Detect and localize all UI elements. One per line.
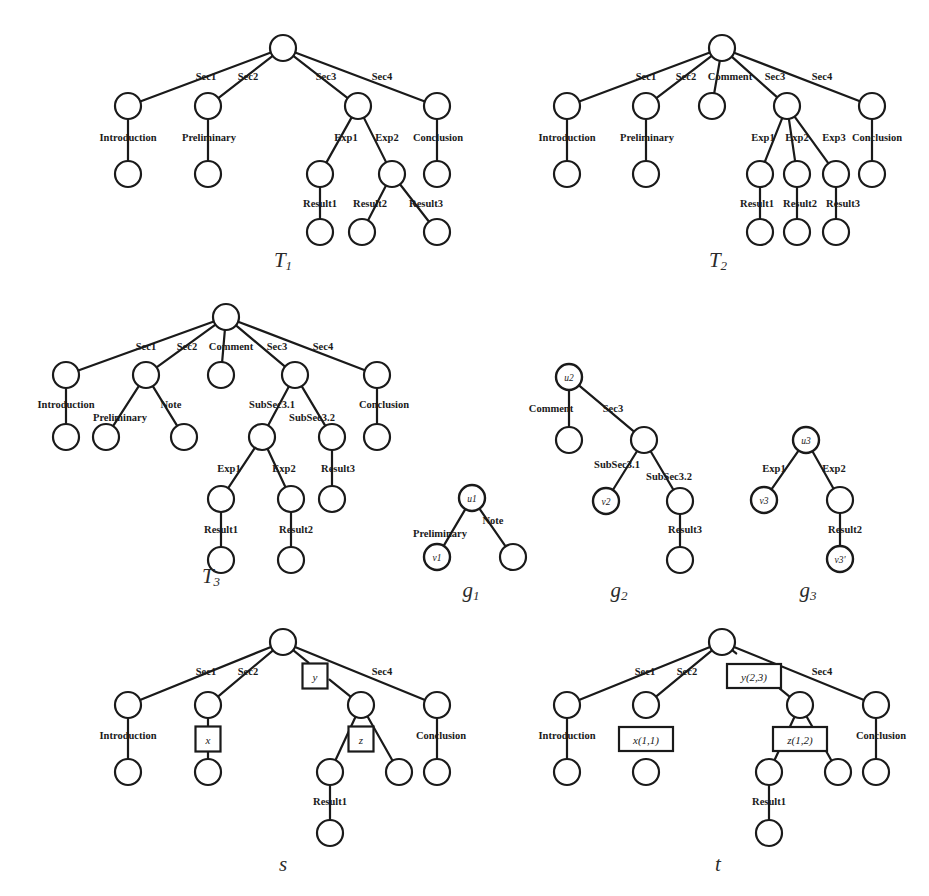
box-x-label: x(1,1) [632,734,659,747]
tree-node [424,219,450,245]
tree-node [631,427,657,453]
tree-node [278,486,304,512]
edge-label: Sec3 [316,71,336,82]
panel-caption-T2: T2 [709,248,728,273]
tree-node [787,692,813,718]
box-x-label: x [205,734,211,746]
panel-T2: Sec1Sec2CommentSec3Sec4IntroductionPreli… [539,35,903,273]
tree-node [270,35,296,61]
tree-node [213,304,239,330]
edge-label: Result2 [828,524,862,535]
tree-node [307,219,333,245]
panel-s: Sec1Sec2Sec4IntroductionConclusionResult… [100,629,467,876]
tree-node [633,93,659,119]
tree-node [115,161,141,187]
tree-node [633,759,659,785]
tree-node [319,424,345,450]
edge-label: Exp2 [272,463,295,474]
edge-label: SubSec3.2 [646,471,692,482]
tree-node [195,759,221,785]
node-label: v2 [602,497,611,507]
edge-label: Sec3 [603,403,623,414]
panel-g2: CommentSec3SubSec3.1SubSec3.2Result3u2v2… [529,364,702,603]
edge-label: Sec1 [136,341,156,352]
edge-label: Sec2 [238,71,258,82]
edge-label: Exp2 [822,463,845,474]
edge-label: Sec3 [267,341,287,352]
edge-label: Result1 [752,796,786,807]
tree-node [317,759,343,785]
edge-label: SubSec3.1 [249,399,295,410]
tree-node [208,486,234,512]
edge-label: Sec4 [313,341,334,352]
tree-node [424,93,450,119]
tree-node [115,692,141,718]
edge-label: Introduction [539,730,596,741]
panel-g1: PreliminaryNoteu1v1g1 [413,485,526,603]
tree-figure: Sec1Sec2Sec3Sec4IntroductionPreliminaryE… [0,0,929,896]
tree-node [823,161,849,187]
tree-node [827,487,853,513]
panel-g3: Exp1Exp2Result2u3v3v3'g3 [751,427,862,603]
tree-node [195,692,221,718]
edge-label: Sec2 [238,666,258,677]
edge-label: Sec4 [812,71,833,82]
tree-node [345,93,371,119]
edge-label: SubSec3.1 [594,459,640,470]
tree-edge [479,509,505,547]
tree-node [386,759,412,785]
box-z-label: z [358,734,364,746]
tree-node [53,362,79,388]
tree-node [424,759,450,785]
tree-node [270,629,296,655]
tree-node [756,820,782,846]
tree-node [747,219,773,245]
tree-node [825,759,851,785]
edge-label: Comment [529,403,574,414]
edge-label: Introduction [539,132,596,143]
panel-caption-g3: g3 [800,578,818,603]
tree-node [774,93,800,119]
tree-node [424,161,450,187]
panel-caption-s: s [279,852,287,876]
tree-edge [613,451,637,490]
edge-label: Introduction [100,132,157,143]
edge-label: Note [161,399,182,410]
tree-node [859,161,885,187]
edge-label: Sec1 [635,666,655,677]
edge-label: Sec4 [372,666,393,677]
panel-caption-g1: g1 [463,578,480,603]
panel-T3: Sec1Sec2CommentSec3Sec4IntroductionPreli… [38,304,410,589]
edge-label: Preliminary [182,132,237,143]
edge-label: Comment [209,341,254,352]
edge-label: Result2 [279,524,313,535]
edge-label: SubSec3.2 [289,412,335,423]
tree-node [348,692,374,718]
tree-node [317,820,343,846]
tree-edge [329,680,350,697]
edge-label: Result1 [740,198,774,209]
edge-label: Sec4 [372,71,393,82]
tree-node [667,488,693,514]
edge-label: Result1 [204,524,238,535]
edge-label: Introduction [100,730,157,741]
tree-node [556,427,582,453]
tree-node [756,759,782,785]
edge-label: Preliminary [413,528,468,539]
edge-label: Exp2 [375,132,398,143]
node-label: u3 [801,436,811,446]
tree-node [282,362,308,388]
edge-label: Sec4 [812,666,833,677]
edge-label: Comment [708,71,753,82]
node-label: v1 [433,553,442,563]
edge-label: Sec1 [196,666,216,677]
tree-node [364,362,390,388]
tree-node [93,424,119,450]
tree-node [554,161,580,187]
edge-label: Result1 [313,796,347,807]
tree-node [554,93,580,119]
edge-label: Conclusion [413,132,463,143]
tree-node [115,759,141,785]
tree-node [349,219,375,245]
tree-node [863,759,889,785]
